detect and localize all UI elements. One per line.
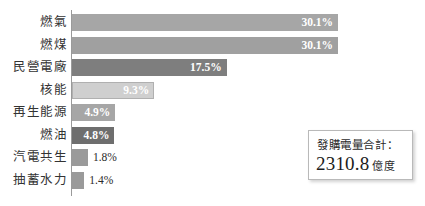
bar-category-label: 燃氣 xyxy=(0,12,68,33)
total-callout-box: 發購電量合計： 2310.8億度 xyxy=(308,130,413,180)
bar-value-label: 17.5% xyxy=(72,59,227,76)
total-callout-unit: 億度 xyxy=(372,160,395,172)
bar-row: 核能9.3% xyxy=(0,80,425,101)
bar-value-label: 1.4% xyxy=(84,172,113,189)
bar-value-label: 4.9% xyxy=(72,104,115,121)
bar-category-label: 汽電共生 xyxy=(0,147,68,168)
bar-category-label: 再生能源 xyxy=(0,102,68,123)
bar-category-label: 燃煤 xyxy=(0,35,68,56)
bar-value-label: 4.8% xyxy=(72,127,114,144)
bar-track: 1.8% xyxy=(72,147,338,168)
bar-row: 燃煤30.1% xyxy=(0,35,425,56)
bar-track: 30.1% xyxy=(72,12,338,33)
bar-value-label: 9.3% xyxy=(72,82,154,99)
bar-category-label: 燃油 xyxy=(0,125,68,146)
bar-track: 17.5% xyxy=(72,57,338,78)
total-callout-title: 發購電量合計： xyxy=(317,136,398,152)
bar-track: 9.3% xyxy=(72,80,338,101)
bar-row: 再生能源4.9% xyxy=(0,102,425,123)
bar-value-label: 30.1% xyxy=(72,37,338,54)
bar-track: 4.8% xyxy=(72,125,338,146)
bar-category-label: 抽蓄水力 xyxy=(0,170,68,191)
bar-row: 燃氣30.1% xyxy=(0,12,425,33)
bar-value-label: 30.1% xyxy=(72,14,338,31)
bar-category-label: 民營電廠 xyxy=(0,57,68,78)
bar xyxy=(72,172,84,189)
total-callout-value-line: 2310.8億度 xyxy=(316,153,395,175)
bar-category-label: 核能 xyxy=(0,80,68,101)
bar-chart: 燃氣30.1%燃煤30.1%民營電廠17.5%核能9.3%再生能源4.9%燃油4… xyxy=(0,0,425,206)
bar-track: 30.1% xyxy=(72,35,338,56)
bar-track: 4.9% xyxy=(72,102,338,123)
total-callout-value: 2310.8 xyxy=(316,153,369,174)
bar-value-label: 1.8% xyxy=(88,149,117,166)
bar-track: 1.4% xyxy=(72,170,338,191)
bar xyxy=(72,149,88,166)
bar-row: 民營電廠17.5% xyxy=(0,57,425,78)
